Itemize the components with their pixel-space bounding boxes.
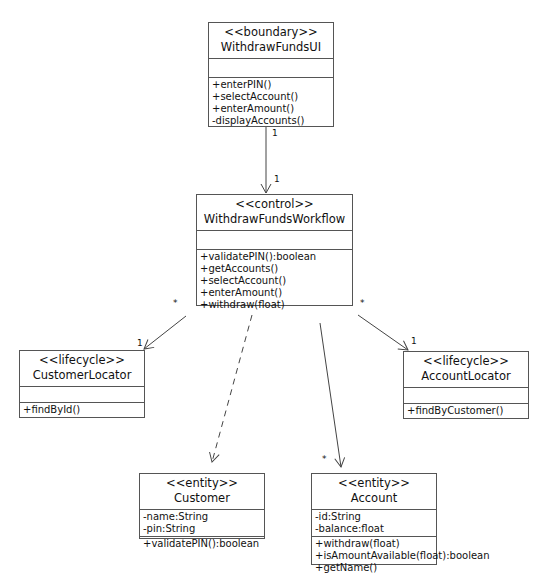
multiplicity-label: 1 [272, 128, 278, 138]
method: +getName() [315, 562, 433, 574]
class-header: <<lifecycle>> AccountLocator [404, 352, 528, 388]
attributes-section [20, 387, 144, 403]
method: +enterPIN() [212, 79, 330, 91]
method: -displayAccounts() [212, 115, 330, 127]
class-name: AccountLocator [406, 369, 526, 384]
class-name: Customer [142, 491, 262, 506]
multiplicity-label: * [360, 298, 365, 308]
stereotype: <<entity>> [142, 476, 262, 491]
attribute: -id:String [315, 511, 433, 523]
method: +isAmountAvailable(float):boolean [315, 550, 433, 562]
class-header: <<control>> WithdrawFundsWorkflow [197, 195, 352, 231]
multiplicity-label: * [322, 454, 327, 464]
attributes-section [197, 231, 352, 250]
method: +withdraw(float) [315, 538, 433, 550]
method: +findById() [23, 404, 141, 416]
edge-workflow-to-customer-dependency [212, 315, 252, 462]
methods-section: +enterPIN() +selectAccount() +enterAmoun… [209, 78, 333, 128]
method: +validatePIN():boolean [200, 251, 349, 263]
attributes-section [209, 59, 333, 78]
class-withdrawfundsui[interactable]: <<boundary>> WithdrawFundsUI +enterPIN()… [208, 22, 334, 127]
stereotype: <<entity>> [314, 476, 434, 491]
method: +findByCustomer() [407, 405, 525, 417]
methods-section: +withdraw(float) +isAmountAvailable(floa… [312, 537, 436, 575]
method: +withdraw(float) [200, 299, 349, 311]
attributes-section: -name:String -pin:String [140, 510, 264, 537]
class-header: <<lifecycle>> CustomerLocator [20, 351, 144, 387]
attributes-section: -id:String -balance:float [312, 510, 436, 537]
class-header: <<entity>> Customer [140, 474, 264, 510]
multiplicity-label: * [173, 298, 178, 308]
attribute: -name:String [143, 511, 261, 523]
stereotype: <<lifecycle>> [22, 353, 142, 368]
methods-section: +validatePIN():boolean [140, 537, 264, 551]
methods-section: +validatePIN():boolean +getAccounts() +s… [197, 250, 352, 312]
attribute: -pin:String [143, 523, 261, 535]
class-name: Account [314, 491, 434, 506]
multiplicity-label: 1 [411, 336, 417, 346]
class-name: CustomerLocator [22, 368, 142, 383]
class-withdrawfundsworkflow[interactable]: <<control>> WithdrawFundsWorkflow +valid… [196, 194, 353, 306]
edge-workflow-to-customerlocator [144, 316, 186, 349]
attribute: -balance:float [315, 523, 433, 535]
methods-section: +findById() [20, 403, 144, 417]
class-name: WithdrawFundsUI [211, 40, 331, 55]
method: +enterAmount() [200, 287, 349, 299]
multiplicity-label: 1 [137, 338, 143, 348]
class-customerlocator[interactable]: <<lifecycle>> CustomerLocator +findById(… [19, 350, 145, 418]
methods-section: +findByCustomer() [404, 404, 528, 418]
class-name: WithdrawFundsWorkflow [199, 212, 350, 227]
method: +selectAccount() [200, 275, 349, 287]
method: +getAccounts() [200, 263, 349, 275]
method: +enterAmount() [212, 103, 330, 115]
stereotype: <<boundary>> [211, 25, 331, 40]
edge-workflow-to-account [320, 323, 341, 467]
multiplicity-label: 1 [274, 174, 280, 184]
stereotype: <<control>> [199, 197, 350, 212]
class-header: <<entity>> Account [312, 474, 436, 510]
attributes-section [404, 388, 528, 404]
class-customer[interactable]: <<entity>> Customer -name:String -pin:St… [139, 473, 265, 539]
class-header: <<boundary>> WithdrawFundsUI [209, 23, 333, 59]
stereotype: <<lifecycle>> [406, 354, 526, 369]
class-accountlocator[interactable]: <<lifecycle>> AccountLocator +findByCust… [403, 351, 529, 419]
method: +validatePIN():boolean [143, 538, 261, 550]
method: +selectAccount() [212, 91, 330, 103]
edge-workflow-to-accountlocator [358, 315, 408, 350]
class-account[interactable]: <<entity>> Account -id:String -balance:f… [311, 473, 437, 565]
